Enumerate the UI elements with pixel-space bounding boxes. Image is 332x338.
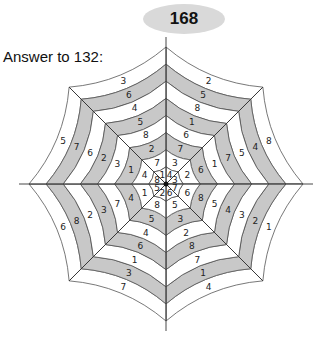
- web-cell-number: 7: [120, 282, 126, 292]
- web-cell-number: 3: [101, 205, 107, 215]
- web-cell-number: 5: [172, 200, 178, 210]
- web-cell-number: 3: [115, 159, 121, 169]
- web-cell-number: 4: [252, 142, 258, 152]
- web-cell-number: 5: [137, 117, 143, 127]
- web-cell-number: 8: [143, 130, 149, 140]
- web-cell-number: 2: [184, 170, 190, 180]
- web-cell-number: 7: [178, 144, 184, 154]
- web-cell-number: 6: [87, 148, 93, 158]
- web-cell-number: 2: [149, 144, 155, 154]
- web-cell-number: 6: [198, 165, 204, 175]
- web-cell-number: 3: [120, 76, 126, 86]
- web-cell-number: 3: [172, 158, 178, 168]
- web-cell-number: 7: [195, 255, 201, 265]
- web-cell-number: 6: [137, 241, 143, 251]
- web-cell-number: 8: [195, 103, 201, 113]
- web-cell-number: 6: [183, 130, 189, 140]
- web-cell-number: 6: [60, 222, 66, 232]
- web-cell-number: 4: [225, 205, 231, 215]
- web-cell-number: 7: [225, 153, 231, 163]
- web-cell-number: 5: [239, 148, 245, 158]
- web-cell-number: 5: [149, 214, 155, 224]
- web-cell-number: 4: [142, 170, 148, 180]
- web-cell-number: 8: [266, 136, 272, 146]
- web-cell-number: 2: [252, 216, 258, 226]
- web-cell-number: 5: [60, 136, 66, 146]
- web-cell-number: 1: [189, 117, 195, 127]
- web-cell-number: 2: [87, 210, 93, 220]
- web-cell-number: 4: [128, 193, 134, 203]
- web-cell-number: 7: [74, 142, 80, 152]
- web-cell-number: 1: [128, 165, 134, 175]
- web-cell-number: 4: [143, 228, 149, 238]
- web-cell-number: 2: [206, 76, 212, 86]
- web-cell-number: 1: [132, 255, 138, 265]
- web-cell-number: 5: [200, 90, 206, 100]
- web-cell-number: 4: [206, 282, 212, 292]
- web-cell-number: 1: [200, 268, 206, 278]
- web-cell-number: 7: [154, 158, 160, 168]
- web-cell-number: 1: [266, 222, 272, 232]
- web-cell-number: 6: [184, 188, 190, 198]
- web-cell-number: 3: [178, 214, 184, 224]
- web-cell-number: 7: [172, 183, 178, 193]
- web-cell-number: 8: [189, 241, 195, 251]
- web-cell-number: 1: [212, 159, 218, 169]
- spider-web-puzzle: 4376185232617548768543216532871428546137…: [0, 0, 332, 338]
- web-cell-number: 6: [126, 90, 132, 100]
- web-cell-number: 5: [212, 199, 218, 209]
- web-cell-number: 8: [154, 200, 160, 210]
- web-cell-number: 2: [183, 228, 189, 238]
- web-cell-number: 2: [101, 153, 107, 163]
- web-cell-number: 8: [198, 193, 204, 203]
- web-cell-number: 2: [159, 188, 165, 198]
- web-cell-number: 3: [126, 268, 132, 278]
- web-cell-number: 3: [239, 210, 245, 220]
- web-cell-number: 1: [159, 170, 165, 180]
- web-cell-number: 1: [142, 188, 148, 198]
- web-cell-number: 4: [132, 103, 138, 113]
- web-cell-number: 6: [167, 188, 173, 198]
- web-cell-number: 7: [115, 199, 121, 209]
- web-cell-number: 8: [74, 216, 80, 226]
- web-center-dot: [164, 182, 169, 187]
